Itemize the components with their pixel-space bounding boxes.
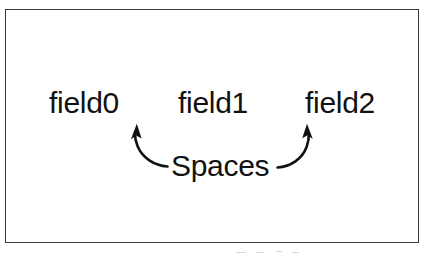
right-arrow: [278, 124, 313, 168]
field-label-field1: field1: [178, 86, 248, 120]
arrow-layer: [6, 10, 426, 259]
field-label-field2: field2: [305, 86, 375, 120]
figure-root: field0 field1 field2 Spaces: [0, 0, 426, 259]
scan-artifact: [292, 252, 299, 253]
diagram-frame: field0 field1 field2 Spaces: [5, 9, 419, 243]
scan-artifact: [276, 251, 282, 252]
spaces-annotation-label: Spaces: [171, 149, 269, 183]
field-label-field0: field0: [49, 86, 119, 120]
scan-artifact: [256, 252, 264, 253]
left-arrow: [131, 124, 168, 167]
scan-artifact: [236, 252, 246, 253]
